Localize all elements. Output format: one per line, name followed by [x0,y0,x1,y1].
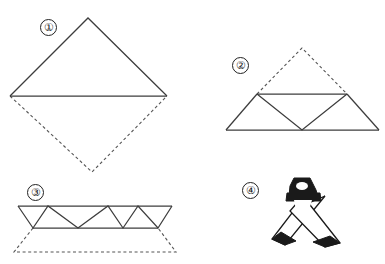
step-label-3: ③ [27,184,44,201]
step-label-2: ② [232,57,249,74]
step-label-4: ④ [242,182,259,199]
folding-steps-figure: ① ② ③ ④ [0,0,385,264]
step-2-right-slant [347,94,379,130]
step-2-dashed-apex [257,48,347,94]
step-2-drawing [226,48,379,130]
step-4-knot-opening [296,182,308,190]
step-3-drawing [14,206,176,252]
step-2-left-slant [226,94,257,130]
diagram-vector-layer [0,0,385,264]
step-label-1: ① [40,19,57,36]
step-4-neck [294,200,312,210]
step-3-zigzag-creases [18,206,172,228]
step-1-drawing [10,18,167,172]
step-3-dashed-outline [14,228,176,252]
step-4-knot-band [286,193,321,201]
step-2-inner-v-creases [257,94,347,130]
step-4-drawing [272,178,340,247]
step-1-triangle-outline [10,18,167,96]
step-1-dashed-fold-lines [10,96,167,172]
